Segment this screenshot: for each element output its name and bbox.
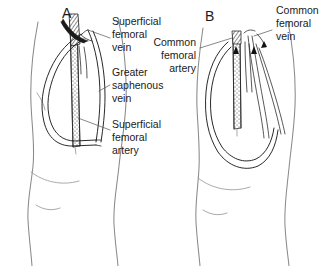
leader-superficial-femoral-vein <box>88 30 110 38</box>
panel-a-leaders <box>78 30 110 130</box>
label-superficial-femoral-artery: Superficial femoral artery <box>112 118 161 156</box>
label-line: vein <box>112 41 131 53</box>
limb-outline-right-b <box>285 22 295 266</box>
label-line: femoral <box>112 28 147 40</box>
label-line: artery <box>112 144 140 156</box>
label-line: Common <box>276 4 319 16</box>
panel-b-common-femoral-artery <box>232 31 241 136</box>
panel-letter-a: A <box>62 5 72 21</box>
limb-crease-upper-a <box>37 93 45 110</box>
leader-superficial-femoral-artery <box>78 118 110 130</box>
artery-tail-a <box>75 147 76 154</box>
limb-knee-crease-b <box>198 178 250 190</box>
label-line: Superficial <box>112 118 161 130</box>
branch-b-4 <box>259 48 285 134</box>
label-line: Superficial <box>112 15 161 27</box>
arrowhead-vein-b <box>251 46 257 54</box>
figure-container: A B Superficial femoral vein Greater sap… <box>0 0 335 266</box>
branch-a-4 <box>79 46 81 74</box>
artery-hatched-top-b <box>232 31 241 44</box>
label-line: vein <box>112 92 131 104</box>
panel-b-vein-graft-loop <box>206 42 279 168</box>
panel-letter-b: B <box>205 8 214 24</box>
branch-a-5 <box>84 47 87 78</box>
sfv-outer-a <box>88 30 100 142</box>
leader-common-femoral-vein <box>254 30 272 36</box>
branch-b-6 <box>249 44 252 92</box>
branch-b-5 <box>245 42 247 92</box>
label-line: femoral <box>161 49 196 61</box>
sfv-junction-a <box>82 30 88 34</box>
graft-inner-b <box>210 47 274 161</box>
branch-b-8 <box>244 30 255 33</box>
label-common-femoral-vein: Common femoral vein <box>276 4 319 42</box>
arrowhead-branch-b <box>261 41 267 48</box>
label-line: femoral <box>276 17 311 29</box>
anatomical-illustration: A B Superficial femoral vein Greater sap… <box>0 0 335 266</box>
label-common-femoral-artery: Common femoral artery <box>153 36 196 74</box>
limb-crease-lower-a <box>36 205 60 210</box>
label-greater-saphenous-vein: Greater saphenous vein <box>112 66 163 104</box>
branch-b-3 <box>256 44 281 134</box>
label-line: saphenous <box>112 79 163 91</box>
sfv-inner-a <box>93 31 105 142</box>
label-line: Greater <box>112 66 148 78</box>
limb-outline-left-a <box>28 22 38 266</box>
saphenous-tip-a <box>96 145 101 146</box>
label-line: Common <box>153 36 196 48</box>
limb-outline-left-b <box>196 28 203 266</box>
limb-knee-crease-a <box>31 172 79 183</box>
panel-a-superficial-femoral-vein <box>82 30 105 142</box>
label-line: vein <box>276 30 295 42</box>
label-line: artery <box>169 62 197 74</box>
branch-b-1 <box>248 36 264 138</box>
limb-crease-lower-b <box>203 210 227 215</box>
label-line: femoral <box>112 131 147 143</box>
